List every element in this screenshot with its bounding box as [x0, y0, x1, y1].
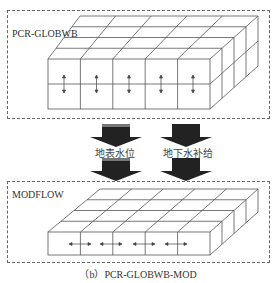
flow-arrow-recharge-bottom	[160, 158, 212, 181]
top-grid-block	[48, 16, 258, 109]
figure-caption: （b）PCR-GLOBWB-MOD	[0, 266, 276, 281]
diagram-canvas	[0, 0, 276, 283]
surface-water-level-label: 地表水位	[95, 145, 135, 160]
flow-arrow-surface-water-bottom	[90, 158, 142, 181]
flow-arrow-recharge-top	[160, 124, 212, 147]
horizontal-flux-arrows	[69, 243, 187, 246]
flow-arrow-surface-water-top	[90, 124, 142, 147]
groundwater-recharge-label: 地下水补给	[163, 145, 213, 160]
